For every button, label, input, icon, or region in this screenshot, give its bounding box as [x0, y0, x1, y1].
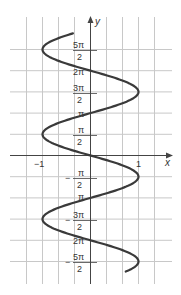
- y-axis-label: y: [94, 16, 101, 27]
- y-tick-neg-5pi-2: − 5π 2: [65, 252, 97, 274]
- x-axis-label: x: [164, 157, 171, 168]
- x-tick-neg1: −1: [34, 159, 44, 169]
- svg-text:−: −: [65, 257, 70, 267]
- y-tick-5pi-2: 5π 2: [73, 40, 97, 62]
- svg-text:π: π: [78, 125, 84, 135]
- x-tick-pos1: 1: [136, 159, 141, 169]
- svg-text:3π: 3π: [73, 210, 84, 220]
- y-tick-neg-3pi-2: − 3π 2: [65, 210, 97, 232]
- svg-text:3π: 3π: [73, 83, 84, 93]
- svg-text:−: −: [65, 173, 70, 183]
- y-tick-neg-pi-2: − π 2: [65, 168, 97, 190]
- svg-text:5π: 5π: [73, 252, 84, 262]
- svg-text:2: 2: [77, 52, 82, 62]
- svg-text:−: −: [65, 215, 70, 225]
- svg-text:2: 2: [77, 180, 82, 190]
- svg-text:5π: 5π: [73, 40, 84, 50]
- y-tick-pi-2: π 2: [73, 125, 97, 147]
- y-axis-arrow-icon: [88, 16, 94, 23]
- svg-text:2: 2: [77, 222, 82, 232]
- y-tick-3pi-2: 3π 2: [73, 83, 97, 105]
- svg-text:2: 2: [77, 137, 82, 147]
- svg-text:2: 2: [77, 264, 82, 274]
- svg-text:2: 2: [77, 95, 82, 105]
- sine-graph: y x −1 1 5π 2 2π 3π 2 π π 2 − π 2 π − 3π…: [0, 0, 181, 295]
- svg-text:π: π: [78, 168, 84, 178]
